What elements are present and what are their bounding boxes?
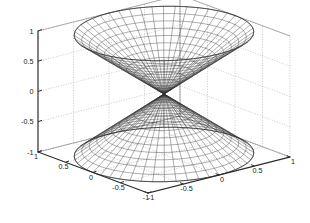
y-tick-label: 0 — [89, 173, 93, 182]
x-tick-label: -0.5 — [180, 184, 192, 193]
z-tick-label: 0 — [30, 87, 34, 96]
z-tick-label: 0.5 — [24, 57, 34, 66]
y-tick-label: 0.5 — [59, 162, 69, 171]
x-tick-label: 1 — [291, 157, 295, 166]
x-tick-label: 0 — [220, 175, 224, 184]
z-tick-label: -0.5 — [21, 117, 33, 126]
figure-canvas: 10.50-0.5-110.50-0.5-1-1-0.500.51 — [0, 0, 310, 223]
mesh-plot-3d[interactable]: 10.50-0.5-110.50-0.5-1-1-0.500.51 — [0, 0, 310, 223]
z-tick-label: 1 — [30, 27, 34, 36]
x-tick-label: -1 — [148, 193, 154, 202]
x-tick-label: 0.5 — [253, 166, 263, 175]
z-tick-label: -1 — [27, 148, 33, 157]
y-tick-label: -0.5 — [112, 183, 124, 192]
y-tick-label: 1 — [34, 152, 38, 161]
